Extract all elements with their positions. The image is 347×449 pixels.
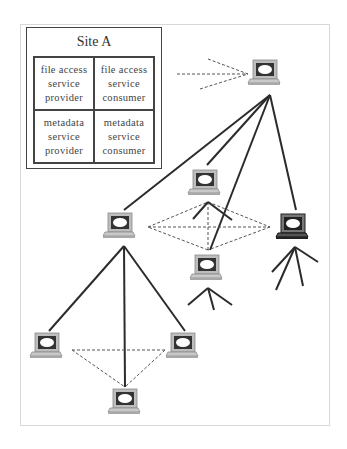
cell-metadata-provider: metadata service provider	[34, 110, 94, 163]
computer-icon-center-upper	[188, 170, 220, 195]
cell-line: provider	[45, 91, 83, 105]
right-node-branches	[272, 247, 318, 290]
mid-left-links	[49, 246, 185, 387]
cell-file-access-provider: file access service provider	[34, 57, 94, 110]
cell-line: service	[108, 77, 140, 91]
site-title: Site A	[27, 34, 161, 50]
cell-line: provider	[45, 144, 83, 158]
computer-icon-bottom-left	[30, 333, 62, 358]
network-diagram: Site A file access service provider file…	[0, 0, 347, 449]
computer-icon-right	[276, 214, 308, 239]
cell-line: file access	[101, 63, 148, 77]
cell-line: metadata	[44, 116, 84, 130]
cell-line: metadata	[104, 116, 144, 130]
bottom-dashed-mesh	[72, 350, 165, 387]
cell-line: consumer	[102, 144, 145, 158]
cell-metadata-consumer: metadata service consumer	[94, 110, 154, 163]
computer-icon-top	[248, 60, 280, 85]
computer-icon-center-lower	[190, 255, 222, 280]
service-grid: file access service provider file access…	[33, 56, 155, 164]
cell-line: file access	[41, 63, 88, 77]
computer-icon-mid-left	[103, 213, 135, 238]
middle-dashed-mesh	[148, 202, 270, 250]
site-a-box: Site A file access service provider file…	[26, 27, 162, 169]
cell-file-access-consumer: file access service consumer	[94, 57, 154, 110]
cell-line: service	[48, 77, 80, 91]
computer-icon-bottom-center	[108, 389, 140, 414]
computer-icon-bottom-right	[166, 333, 198, 358]
cell-line: service	[48, 130, 80, 144]
cell-line: consumer	[102, 91, 145, 105]
incoming-dashed-lines	[177, 59, 248, 89]
center-lower-branches	[188, 288, 232, 310]
cell-line: service	[108, 130, 140, 144]
